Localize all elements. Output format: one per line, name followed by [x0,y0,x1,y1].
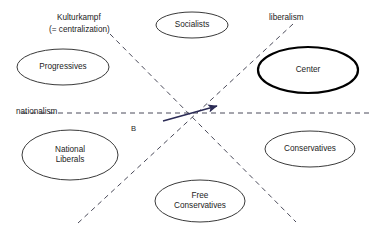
axis-sublabel-kulturkampf: (= centralization) [49,25,110,34]
party-nodes-group: ProgressivesSocialistsCenterNationalLibe… [17,12,358,222]
party-node-conservatives[interactable]: Conservatives [265,131,355,167]
party-node-free-conservatives[interactable]: FreeConservatives [155,180,245,222]
party-node-socialists[interactable]: Socialists [156,12,228,38]
party-node-progressives[interactable]: Progressives [17,49,109,85]
party-node-national-liberals[interactable]: NationalLiberals [22,130,118,180]
axis-label-kulturkampf: Kulturkampf [57,13,101,22]
political-spectrum-diagram: ProgressivesSocialistsCenterNationalLibe… [0,0,371,230]
marker-label-point-b: B [131,124,136,133]
party-label-national-liberals: Liberals [56,155,85,164]
party-label-socialists: Socialists [175,20,210,29]
party-label-center: Center [296,65,321,74]
axis-label-nationalism: nationalism [16,107,58,116]
party-label-progressives: Progressives [39,62,86,71]
party-label-free-conservatives: Conservatives [174,201,226,210]
party-node-center[interactable]: Center [258,47,358,93]
party-label-conservatives: Conservatives [284,144,336,153]
axis-label-liberalism: liberalism [269,13,304,22]
diagram-canvas: ProgressivesSocialistsCenterNationalLibe… [0,0,371,230]
party-label-national-liberals: National [55,145,85,154]
party-label-free-conservatives: Free [192,191,209,200]
